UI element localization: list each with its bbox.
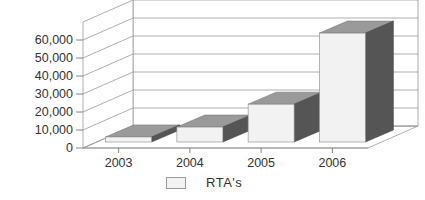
y-tick-label: 60,000: [35, 33, 73, 47]
y-tick-label: 20,000: [35, 105, 73, 119]
x-tick-label: 2003: [105, 156, 133, 170]
chart-left-wall: [83, 0, 133, 148]
x-tick-label: 2005: [247, 156, 275, 170]
x-tick-label: 2006: [318, 156, 346, 170]
y-tick-label: 0: [66, 141, 73, 155]
bar-front: [106, 137, 152, 142]
chart-plot-area: 010,00020,00030,00040,00050,00060,000200…: [0, 0, 425, 200]
y-tick-label: 50,000: [35, 51, 73, 65]
bar-front: [177, 127, 223, 142]
bar-front: [248, 104, 294, 142]
legend-swatch: [166, 177, 186, 189]
bar-side: [365, 21, 393, 142]
chart: 010,00020,00030,00040,00050,00060,000200…: [0, 0, 425, 200]
bar-front: [319, 33, 365, 142]
legend-label: RTA's: [206, 175, 242, 190]
y-tick-label: 10,000: [35, 123, 73, 137]
legend: RTA's: [166, 175, 242, 190]
y-tick-label: 30,000: [35, 87, 73, 101]
y-tick-label: 40,000: [35, 69, 73, 83]
x-tick-label: 2004: [176, 156, 204, 170]
